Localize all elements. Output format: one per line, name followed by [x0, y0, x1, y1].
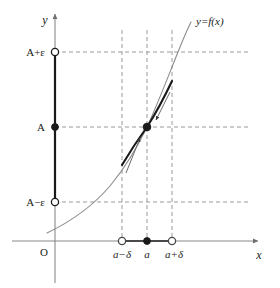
marker-a-minus-delta [118, 237, 125, 244]
axes [12, 14, 258, 283]
origin-label: O [40, 246, 48, 258]
y-tick-label-a-minus-eps: A−ε [26, 196, 45, 208]
x-tick-label-a-plus-delta: a+δ [165, 248, 184, 260]
x-tick-label-a-minus-delta: a−δ [113, 248, 132, 260]
marker-a-plus-delta [168, 237, 175, 244]
approach-arrows [126, 92, 170, 173]
marker-x-a [144, 238, 151, 245]
y-axis-label: y [41, 13, 48, 27]
y-tick-label-a: A [37, 121, 45, 133]
guide-lines [55, 30, 250, 241]
marker-a-minus-eps [51, 198, 58, 205]
y-tick-label-a-plus-eps: A+ε [26, 46, 45, 58]
limit-definition-figure: A+ε A A−ε a−δ a a+δ O y x y=f(x) [0, 0, 280, 288]
limit-point-marker [143, 123, 151, 131]
x-axis-label: x [255, 248, 262, 262]
curve-label: y=f(x) [195, 15, 224, 28]
approach-from-right-arrow [156, 92, 170, 120]
x-tick-label-a: a [144, 248, 150, 260]
figure-canvas: A+ε A A−ε a−δ a a+δ O y x y=f(x) [0, 0, 280, 288]
marker-a-plus-eps [51, 48, 58, 55]
marker-a [52, 124, 59, 131]
